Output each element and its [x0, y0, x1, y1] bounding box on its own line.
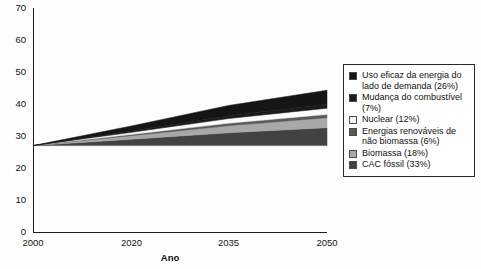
x-axis-title: Ano [0, 252, 340, 263]
legend-item-2[interactable]: Mudança do combustível (7%) [349, 92, 470, 113]
chart-figure: 010203040506070 2000202020352050 Ano Uso… [0, 0, 481, 269]
legend-item-label: Nuclear (12%) [362, 114, 420, 125]
x-axis-tick-2035: 2035 [207, 238, 251, 248]
legend-item-label: CAC fóssil (33%) [362, 159, 431, 170]
legend-item-1[interactable]: Uso eficaz da energia do lado de demanda… [349, 70, 470, 91]
legend-item-6[interactable]: CAC fóssil (33%) [349, 159, 470, 170]
legend-item-4[interactable]: Energias renováveis de não biomassa (6%) [349, 126, 470, 147]
legend-item-3[interactable]: Nuclear (12%) [349, 114, 470, 125]
plot-area [0, 0, 340, 240]
legend-item-label: Uso eficaz da energia do lado de demanda… [362, 70, 470, 91]
legend-swatch-icon [349, 128, 357, 136]
x-axis-tick-2000: 2000 [11, 238, 55, 248]
legend-swatch-icon [349, 72, 357, 80]
legend-item-label: Energias renováveis de não biomassa (6%) [362, 126, 470, 147]
legend-swatch-icon [349, 94, 357, 102]
legend-item-5[interactable]: Biomassa (18%) [349, 148, 470, 159]
legend-swatch-icon [349, 150, 357, 158]
x-axis-tick-2050: 2050 [305, 238, 349, 248]
legend-item-label: Mudança do combustível (7%) [362, 92, 470, 113]
legend-swatch-icon [349, 161, 357, 169]
chart-legend: Uso eficaz da energia do lado de demanda… [343, 64, 475, 177]
legend-swatch-icon [349, 116, 357, 124]
legend-item-label: Biomassa (18%) [362, 148, 428, 159]
x-axis-tick-2020: 2020 [109, 238, 153, 248]
